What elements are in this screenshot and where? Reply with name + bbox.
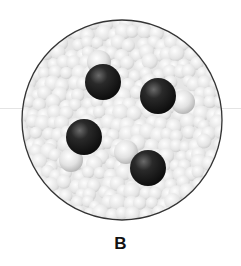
solvent-particles bbox=[9, 4, 241, 234]
dark-atom bbox=[85, 64, 121, 100]
figure-label: B bbox=[0, 234, 241, 254]
dark-atom bbox=[140, 78, 176, 114]
dark-atom bbox=[66, 119, 102, 155]
particle-diagram bbox=[0, 0, 241, 266]
dark-atom bbox=[130, 150, 166, 186]
